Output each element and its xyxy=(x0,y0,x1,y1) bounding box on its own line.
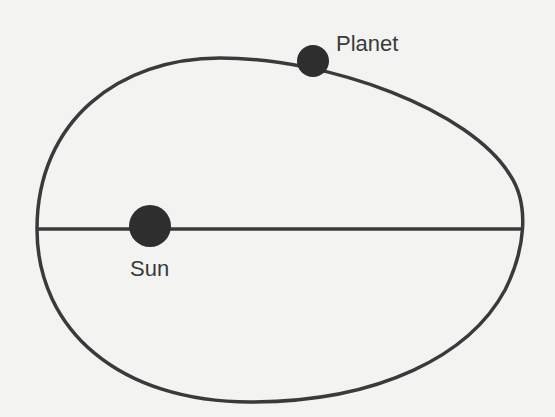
planet-label: Planet xyxy=(336,33,398,55)
orbit-canvas xyxy=(0,0,555,417)
sun-label: Sun xyxy=(130,258,169,280)
sun-body xyxy=(129,205,171,247)
orbit-diagram: Planet Sun xyxy=(0,0,555,417)
planet-body xyxy=(297,45,329,77)
